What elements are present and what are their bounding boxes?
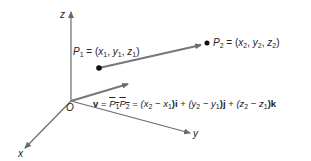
eq-equals: =: [101, 98, 107, 109]
p1-z-sub: 1: [132, 51, 136, 58]
eq-plus2: +: [226, 98, 237, 109]
origin-label: O: [66, 103, 74, 113]
x-axis-label: x: [18, 149, 23, 159]
eq-term1-b: − x: [152, 98, 168, 109]
eq-term3-unit: )k: [268, 98, 276, 109]
p1-name: P: [73, 46, 80, 57]
eq-term2-b: − y: [200, 98, 216, 109]
eq-lhs-v: v: [93, 98, 98, 109]
p2-y-sub: 2: [258, 42, 262, 49]
x-axis: [25, 101, 71, 148]
eq-equals-2: =: [132, 98, 138, 109]
eq-term3-b: − z: [248, 98, 264, 109]
vector-equation: v = P1P2 = (x2 − x1)i + (y2 − y1)j + (z2…: [93, 99, 276, 109]
point-p1: [96, 65, 102, 71]
eq-vector-p1p2: P1P2: [109, 98, 130, 109]
eq-p2-sub: 2: [126, 103, 130, 110]
p2-x-sub: 2: [243, 42, 247, 49]
p2-eq: = (: [226, 37, 238, 48]
p2-label: P2 = (x2, y2, z2): [213, 38, 280, 48]
z-axis-label: z: [60, 10, 65, 20]
diagram-canvas: [0, 0, 311, 161]
y-axis-label: y: [193, 129, 198, 139]
p1-y-sub: 1: [118, 51, 122, 58]
p1-label: P1 = (x1, y1, z1): [73, 47, 140, 57]
p1-sub: 1: [80, 51, 84, 58]
p2-z-sub: 2: [272, 42, 276, 49]
p2-name: P: [213, 37, 220, 48]
p1-x-sub: 1: [103, 51, 107, 58]
p2-sub: 2: [220, 42, 224, 49]
p1-eq: = (: [86, 46, 98, 57]
eq-plus1: +: [178, 98, 189, 109]
point-p2: [205, 41, 210, 46]
